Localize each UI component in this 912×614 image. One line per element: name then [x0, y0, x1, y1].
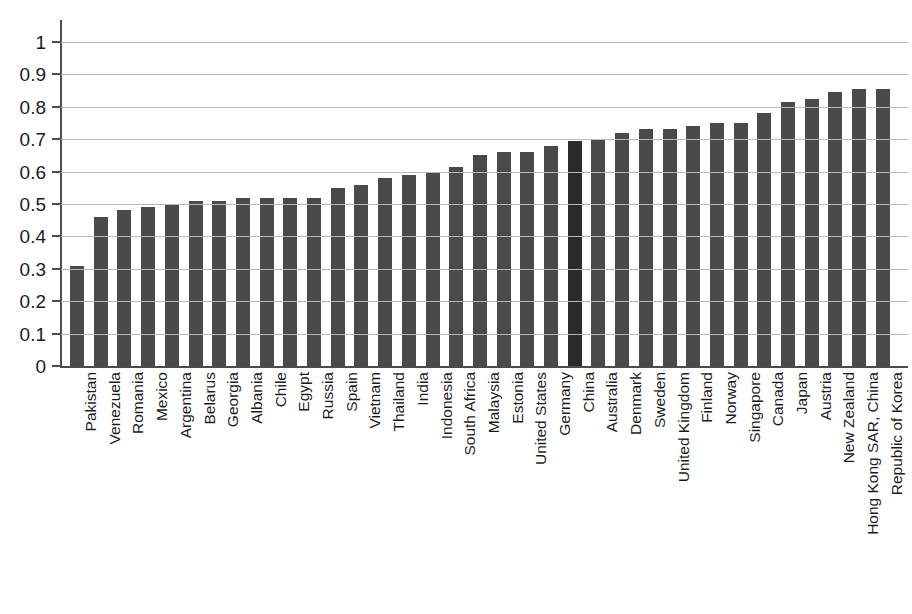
x-axis-label: Indonesia [439, 372, 455, 439]
bar[interactable] [189, 201, 203, 366]
bar[interactable] [568, 141, 582, 366]
x-axis-label: Russia [320, 372, 336, 419]
bar[interactable] [828, 92, 842, 366]
bar[interactable] [639, 129, 653, 366]
y-axis-tick-label: 0.4 [20, 227, 46, 246]
x-axis-line [60, 366, 908, 368]
x-axis-label: Republic of Korea [889, 372, 905, 495]
y-axis-tick-label: 0.8 [20, 97, 46, 116]
gridline [60, 107, 908, 108]
y-axis-tick [52, 171, 61, 173]
bar[interactable] [141, 207, 155, 366]
y-axis-tick-label: 0 [35, 357, 46, 376]
x-axis-label: Pakistan [83, 372, 99, 431]
y-axis-tick-label: 0.9 [20, 65, 46, 84]
bar[interactable] [331, 188, 345, 366]
x-axis-label: Mexico [154, 372, 170, 421]
y-axis-tick [52, 41, 61, 43]
bar[interactable] [94, 217, 108, 366]
bar[interactable] [212, 201, 226, 366]
x-axis-label: Romania [130, 372, 146, 434]
bar[interactable] [117, 210, 131, 366]
x-axis-label: Egypt [296, 372, 312, 412]
x-axis-label: Vietnam [367, 372, 383, 429]
x-axis-label: Denmark [628, 372, 644, 435]
bar[interactable] [378, 178, 392, 366]
y-axis-tick [52, 235, 61, 237]
x-axis-label: Sweden [652, 372, 668, 428]
bar[interactable] [852, 89, 866, 366]
y-axis-tick-label: 0.3 [20, 259, 46, 278]
y-axis-tick-label: 0.7 [20, 130, 46, 149]
x-axis-label: Singapore [747, 372, 763, 443]
x-axis-label: Georgia [225, 372, 241, 427]
x-axis-label: Estonia [510, 372, 526, 424]
bar[interactable] [283, 198, 297, 366]
x-axis-label: Austria [818, 372, 834, 420]
y-axis-tick [52, 365, 61, 367]
y-axis-tick [52, 73, 61, 75]
gridline [60, 172, 908, 173]
gridline [60, 334, 908, 335]
bar[interactable] [70, 266, 84, 366]
x-axis-label: Finland [699, 372, 715, 423]
y-axis-tick-label: 0.2 [20, 292, 46, 311]
x-axis-label: South Africa [462, 372, 478, 456]
x-axis-label: New Zealand [841, 372, 857, 463]
y-axis-tick-label: 0.1 [20, 324, 46, 343]
x-axis-label: India [415, 372, 431, 406]
gridline [60, 204, 908, 205]
x-axis-label: United States [533, 372, 549, 465]
bar[interactable] [449, 167, 463, 366]
x-axis-label: Malaysia [486, 372, 502, 433]
y-axis-tick-label: 0.5 [20, 195, 46, 214]
x-axis-label: Belarus [202, 372, 218, 425]
x-axis-label: Hong Kong SAR, China [865, 372, 881, 535]
x-axis-label: Albania [249, 372, 265, 424]
y-axis-tick [52, 106, 61, 108]
y-axis-tick [52, 300, 61, 302]
x-axis-label: China [581, 372, 597, 413]
y-axis-tick [52, 138, 61, 140]
y-axis-tick-label: 1 [35, 33, 46, 52]
bar[interactable] [260, 198, 274, 366]
bar[interactable] [663, 129, 677, 366]
bar[interactable] [615, 133, 629, 366]
y-axis-tick [52, 203, 61, 205]
gridline [60, 269, 908, 270]
bar[interactable] [165, 204, 179, 366]
x-axis-label: Thailand [391, 372, 407, 431]
x-axis-label: Spain [344, 372, 360, 412]
bar[interactable] [591, 139, 605, 366]
gridline [60, 301, 908, 302]
x-axis-label: United Kingdom [676, 372, 692, 482]
x-axis-label: Argentina [178, 372, 194, 438]
bar[interactable] [354, 185, 368, 366]
gridline [60, 236, 908, 237]
x-axis-label: Germany [557, 372, 573, 436]
x-axis-labels: PakistanVenezuelaRomaniaMexicoArgentinaB… [62, 372, 908, 602]
bar[interactable] [686, 126, 700, 366]
x-axis-label: Australia [604, 372, 620, 432]
bar[interactable] [757, 113, 771, 366]
bar[interactable] [236, 198, 250, 366]
bar-chart: PakistanVenezuelaRomaniaMexicoArgentinaB… [0, 0, 912, 614]
x-axis-label: Japan [794, 372, 810, 414]
bar[interactable] [307, 198, 321, 366]
y-axis-tick-label: 0.6 [20, 162, 46, 181]
x-axis-label: Canada [770, 372, 786, 426]
gridline [60, 74, 908, 75]
bars-container [62, 20, 908, 366]
x-axis-label: Venezuela [107, 372, 123, 444]
gridline [60, 42, 908, 43]
y-axis-tick [52, 333, 61, 335]
bar[interactable] [781, 102, 795, 366]
y-axis-tick [52, 268, 61, 270]
bar[interactable] [710, 123, 724, 366]
bar[interactable] [876, 89, 890, 366]
x-axis-label: Norway [723, 372, 739, 425]
bar[interactable] [734, 123, 748, 366]
x-axis-label: Chile [273, 372, 289, 407]
gridline [60, 139, 908, 140]
